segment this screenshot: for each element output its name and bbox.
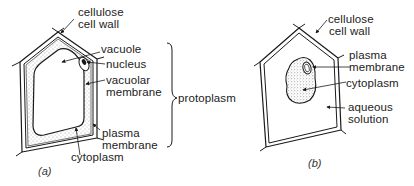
caption-b: (b) bbox=[308, 157, 321, 169]
label-a-vacuolar-membrane: membrane bbox=[106, 86, 162, 98]
label-a-nucleus: nucleus bbox=[106, 58, 146, 70]
label-a-vacuole: vacuole bbox=[101, 43, 141, 55]
label-a-cytoplasm: cytoplasm bbox=[71, 151, 124, 163]
protoplasm-brace bbox=[167, 43, 177, 147]
cell-b bbox=[254, 20, 350, 151]
label-protoplasm: protoplasm bbox=[178, 92, 236, 104]
label-a-vacuolar: vacuolar bbox=[106, 74, 150, 86]
label-a-cellulose: cellulose bbox=[78, 6, 124, 18]
label-b-aqueous: aqueous bbox=[348, 101, 393, 113]
label-b-plasma: plasma bbox=[349, 49, 387, 61]
label-b-cellulose: cellulose bbox=[328, 13, 374, 25]
label-b-plasma-membrane: membrane bbox=[349, 61, 405, 73]
cell-b-protoplast bbox=[286, 58, 316, 104]
label-b-solution: solution bbox=[348, 113, 388, 125]
plant-cell-plasmolysis-figure: cellulose cell wall vacuole nucleus vacu… bbox=[0, 0, 414, 186]
label-b-cell-wall: cell wall bbox=[329, 25, 370, 37]
caption-a: (a) bbox=[38, 165, 51, 177]
label-a-plasma: plasma bbox=[102, 127, 140, 139]
label-a-cell-wall: cell wall bbox=[78, 18, 119, 30]
label-b-cytoplasm: cytoplasm bbox=[346, 77, 399, 89]
label-a-plasma-membrane: membrane bbox=[102, 139, 158, 151]
